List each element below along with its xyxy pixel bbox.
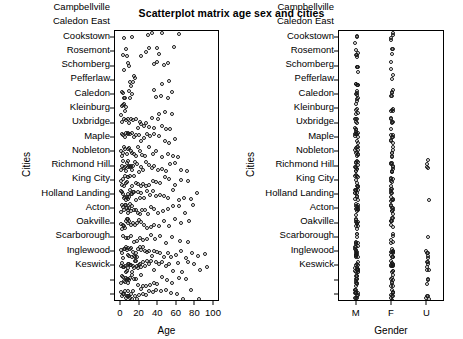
data-point [177, 32, 181, 36]
y-axis-tick [110, 37, 114, 38]
data-point [144, 293, 148, 297]
y-axis-tick-label: Schomberg [285, 59, 334, 69]
data-point [149, 233, 153, 237]
x-axis-tick [426, 301, 427, 305]
data-point [151, 189, 155, 193]
data-point [122, 68, 126, 72]
y-axis-tick-label: Richmond Hill [275, 159, 334, 169]
data-point [354, 248, 358, 252]
data-point [389, 293, 393, 297]
data-point [389, 264, 393, 268]
y-axis-tick-label: Keswick [75, 259, 110, 269]
data-point [129, 234, 133, 238]
data-point [389, 176, 393, 180]
data-point [123, 226, 127, 230]
data-point [171, 204, 175, 208]
y-axis-tick [334, 208, 338, 209]
x-axis-tick-label: F [388, 308, 394, 318]
data-point [157, 224, 161, 228]
y-axis-tick [110, 122, 114, 123]
data-point [152, 132, 156, 136]
data-point [355, 274, 359, 278]
data-point [356, 145, 360, 149]
y-axis-tick-label: Rosemont [291, 45, 334, 55]
data-point [355, 89, 359, 93]
y-axis-tick [110, 94, 114, 95]
data-point [119, 113, 123, 117]
y-axis-tick [334, 51, 338, 52]
data-point [149, 259, 153, 263]
y-axis-tick [110, 194, 114, 195]
data-point [133, 76, 137, 80]
data-point [163, 110, 167, 114]
data-point [169, 291, 173, 295]
data-point [160, 155, 164, 159]
y-axis-tick [110, 165, 114, 166]
data-point [389, 67, 393, 71]
data-point [128, 96, 132, 100]
data-point [185, 169, 189, 173]
x-axis-tick [175, 301, 176, 305]
data-point [157, 134, 161, 138]
data-point [205, 265, 209, 269]
data-point [131, 80, 135, 84]
data-point [389, 277, 393, 281]
data-point [426, 235, 430, 239]
data-point [389, 38, 393, 42]
y-axis-tick-label: Schomberg [61, 59, 110, 69]
data-point [152, 126, 156, 130]
data-point [425, 282, 429, 286]
data-point [192, 262, 196, 266]
y-axis-tick-label: Scarborough [56, 231, 110, 241]
data-point [136, 126, 140, 130]
data-point [142, 136, 146, 140]
data-point [170, 281, 174, 285]
data-point [125, 180, 129, 184]
data-point [157, 112, 161, 116]
data-point [167, 177, 171, 181]
data-point [169, 255, 173, 259]
x-axis-tick [194, 301, 195, 305]
y-axis-tick [334, 108, 338, 109]
data-point [152, 223, 156, 227]
data-point [173, 217, 177, 221]
y-axis-tick-label: Caledon [75, 88, 110, 98]
data-point [354, 188, 358, 192]
data-point [162, 63, 166, 67]
data-point [390, 161, 394, 165]
data-point [179, 168, 183, 172]
y-axis-tick [334, 194, 338, 195]
data-point [389, 109, 393, 113]
y-axis-tick-label: Maple [84, 131, 110, 141]
y-axis-tick [110, 179, 114, 180]
y-axis-tick [110, 222, 114, 223]
x-axis-tick [391, 301, 392, 305]
data-point [355, 107, 359, 111]
y-axis-tick [110, 151, 114, 152]
data-point [134, 277, 138, 281]
data-point [391, 47, 395, 51]
data-point [139, 54, 143, 58]
data-point [177, 198, 181, 202]
right-y-axis-title: Cities [245, 149, 256, 179]
data-point [152, 88, 156, 92]
data-point [147, 145, 151, 149]
data-point [163, 139, 167, 143]
data-point [157, 52, 161, 56]
left-x-axis-title: Age [114, 325, 219, 336]
data-point [354, 160, 358, 164]
data-point [139, 287, 143, 291]
data-point [127, 121, 131, 125]
data-point [158, 234, 162, 238]
y-axis-tick-label: King City [296, 174, 334, 184]
data-point [144, 50, 148, 54]
data-point [170, 112, 174, 116]
data-point [159, 94, 163, 98]
right-x-axis-title: Gender [338, 325, 444, 336]
data-point [129, 84, 133, 88]
y-axis-tick-label: Uxbridge [72, 116, 110, 126]
data-point [390, 94, 394, 98]
y-axis-tick-label: Holland Landing [265, 188, 334, 198]
data-point [123, 109, 127, 113]
data-point [121, 91, 125, 95]
